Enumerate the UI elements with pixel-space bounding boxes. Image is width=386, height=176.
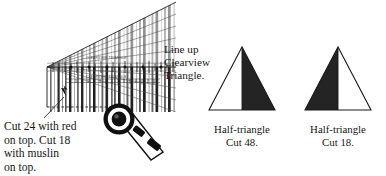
caption-half-triangle-cut-48: Half-triangle Cut 48. [196,123,288,150]
caption-line-up: Line up Clearview Triangle. [164,43,210,83]
cutter-blade [112,112,127,127]
caption-cut-instruction: Cut 24 with red on top. Cut 18 with musl… [4,120,76,175]
cutter-hub [114,114,118,118]
ruler-microtext-top: CLEARVIEW TRIANGLE [86,56,127,60]
ruler-microtext-bottom: CLEARVIEW TRIANGLE [86,75,127,79]
caption-half-triangle-cut-18: Half-triangle Cut 18. [292,123,384,150]
